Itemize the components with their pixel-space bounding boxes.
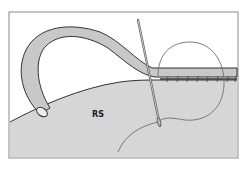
surgical-diagram: RS: [0, 0, 246, 170]
region-label: RS: [92, 110, 104, 119]
